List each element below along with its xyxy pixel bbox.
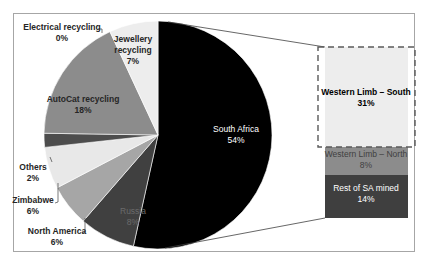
label-electrical-name: Electrical recycling — [23, 22, 101, 32]
label-zimbabwe-name: Zimbabwe — [12, 195, 54, 205]
label-russia-name: Russia — [120, 206, 146, 216]
label-jewellery-name2: recycling — [114, 45, 151, 55]
label-north-america-name: North America — [28, 226, 87, 236]
label-jewellery-name1: Jewellery — [114, 34, 153, 44]
label-jewellery-value: 7% — [127, 56, 140, 66]
label-wl-north-value: 8% — [360, 160, 373, 170]
label-wl-south-name: Western Limb – South — [321, 87, 411, 97]
bar-of-pie-chart: Electrical recycling0% Jewelleryrecyclin… — [0, 0, 428, 266]
svg-text:Others2%: Others2% — [19, 162, 47, 183]
svg-text:Electrical recycling0%: Electrical recycling0% — [23, 22, 101, 43]
label-electrical-value: 0% — [56, 33, 69, 43]
label-zimbabwe-value: 6% — [27, 206, 40, 216]
label-autocat-name: AutoCat recycling — [47, 94, 120, 104]
label-others-name: Others — [19, 162, 47, 172]
label-rest-sa-name: Rest of SA mined — [333, 183, 399, 193]
svg-text:North America6%: North America6% — [28, 226, 87, 247]
label-wl-north-name: Western Limb – North — [325, 149, 408, 159]
label-others-value: 2% — [27, 173, 40, 183]
label-south-africa-value: 54% — [227, 135, 244, 145]
bar-segment-western-limb-south — [325, 47, 408, 147]
label-autocat-value: 18% — [74, 105, 91, 115]
label-north-america-value: 6% — [51, 237, 64, 247]
label-wl-south-value: 31% — [357, 98, 374, 108]
label-rest-sa-value: 14% — [357, 194, 374, 204]
label-south-africa-name: South Africa — [213, 124, 259, 134]
svg-text:Zimbabwe6%: Zimbabwe6% — [12, 195, 54, 216]
label-russia-value: 8% — [127, 217, 140, 227]
